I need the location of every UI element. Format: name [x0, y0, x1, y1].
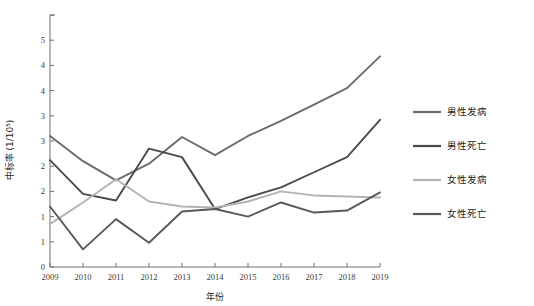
x-tick-label: 2014 — [207, 272, 225, 282]
y-tick-label: 0 — [41, 262, 45, 272]
y-tick-label: 3 — [41, 136, 45, 146]
y-tick-label: 2 — [41, 186, 45, 196]
x-tick-label: 2009 — [42, 272, 59, 282]
x-tick-label: 2018 — [339, 272, 356, 282]
x-tick-label: 2010 — [75, 272, 92, 282]
legend-label[interactable]: 女性发病 — [447, 174, 487, 185]
chart-legend: 男性发病男性死亡女性发病女性死亡 — [413, 106, 487, 219]
series-line — [50, 56, 380, 180]
x-axis-ticks: 2009201020112012201320142015201620172018… — [42, 263, 389, 282]
x-tick-label: 2019 — [372, 272, 389, 282]
y-tick-label: 4 — [41, 86, 46, 96]
x-tick-label: 2011 — [108, 272, 125, 282]
legend-label[interactable]: 男性发病 — [447, 106, 487, 117]
x-tick-label: 2015 — [240, 272, 257, 282]
series-line — [50, 179, 380, 224]
x-tick-label: 2013 — [174, 272, 191, 282]
y-axis-title: 中标率 (1/10⁵) — [4, 120, 15, 181]
y-axis-ticks: 0112233445 — [41, 15, 54, 272]
x-tick-label: 2012 — [141, 272, 158, 282]
y-tick-label: 2 — [41, 161, 45, 171]
chart-figure: 中标率 (1/10⁵) 年份 0112233445 20092010201120… — [0, 0, 534, 306]
series-line — [50, 192, 380, 249]
x-tick-label: 2017 — [306, 272, 323, 282]
line-chart: 中标率 (1/10⁵) 年份 0112233445 20092010201120… — [0, 0, 534, 306]
y-tick-label: 1 — [41, 212, 45, 222]
y-tick-label: 3 — [41, 111, 45, 121]
legend-label[interactable]: 男性死亡 — [447, 140, 487, 151]
legend-label[interactable]: 女性死亡 — [447, 208, 487, 219]
x-axis-title: 年份 — [206, 291, 224, 302]
x-tick-label: 2016 — [273, 272, 290, 282]
series-group — [50, 56, 380, 249]
y-tick-label: 5 — [41, 35, 45, 45]
y-tick-label: 4 — [41, 60, 46, 70]
y-tick-label: 1 — [41, 237, 45, 247]
